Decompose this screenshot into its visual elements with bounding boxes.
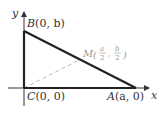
m-y-denominator: 2	[115, 54, 119, 62]
y-axis-label: y	[11, 7, 19, 20]
point-b-coords: (0, b)	[35, 17, 65, 30]
point-a-label: A(a, 0)	[106, 90, 144, 103]
paren-close: )	[122, 49, 127, 60]
point-c-label: C(0, 0)	[27, 90, 65, 103]
paren-open: (	[93, 49, 98, 60]
point-a-coords: (a, 0)	[115, 90, 144, 103]
m-y-numerator: b	[115, 45, 120, 53]
point-c-coords: (0, 0)	[35, 90, 65, 103]
point-b-label: B(0, b)	[26, 17, 65, 30]
median-line	[24, 60, 80, 89]
point-b-name: B	[26, 17, 35, 30]
coordinate-diagram: y x B(0, b) C(0, 0) A(a, 0) M ( a 2 , b …	[0, 0, 164, 114]
x-axis-label: x	[151, 89, 158, 102]
point-m-label: M ( a 2 , b 2 )	[82, 45, 127, 62]
m-x-denominator: 2	[100, 54, 104, 62]
point-a-name: A	[106, 90, 115, 103]
m-x-numerator: a	[100, 45, 104, 53]
comma: ,	[108, 50, 110, 58]
